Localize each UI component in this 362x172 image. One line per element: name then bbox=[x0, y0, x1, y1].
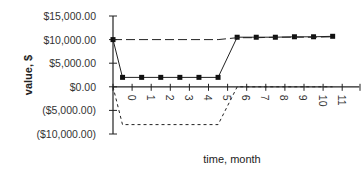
data-point-marker bbox=[216, 75, 221, 80]
data-point-marker bbox=[139, 75, 144, 80]
y-tick-labels: $15,000.00$10,000.00$5,000.00$0.00($5,00… bbox=[36, 10, 96, 140]
x-tick-label: 8 bbox=[278, 95, 290, 101]
x-tick-label: 2 bbox=[164, 95, 176, 101]
data-point-marker bbox=[158, 75, 163, 80]
data-point-marker bbox=[177, 75, 182, 80]
x-tick-label: 3 bbox=[183, 95, 195, 101]
x-tick-label: 9 bbox=[297, 95, 309, 101]
series-line-dotted bbox=[113, 87, 333, 125]
y-tick-label: $0.00 bbox=[70, 81, 96, 93]
y-tick-label: ($5,000.00) bbox=[42, 104, 96, 116]
x-tick-label: 10 bbox=[317, 95, 329, 107]
x-tick-labels: 01234567891011 bbox=[126, 95, 348, 107]
data-point-marker bbox=[120, 75, 125, 80]
y-axis bbox=[109, 16, 117, 134]
x-tick-label: 7 bbox=[259, 95, 271, 101]
data-point-marker bbox=[196, 75, 201, 80]
y-tick-label: $5,000.00 bbox=[49, 57, 96, 69]
line-chart: value, $ $15,000.00$10,000.00$5,000.00$0… bbox=[0, 0, 362, 172]
series-line-solid-with-markers bbox=[113, 36, 333, 77]
series-line-long-dashed bbox=[113, 37, 333, 40]
y-axis-title: value, $ bbox=[22, 55, 34, 95]
data-series bbox=[111, 34, 336, 125]
y-tick-label: $10,000.00 bbox=[43, 34, 96, 46]
x-axis-title: time, month bbox=[203, 153, 260, 165]
data-point-marker bbox=[330, 34, 335, 39]
x-tick-label: 6 bbox=[240, 95, 252, 101]
x-tick-label: 4 bbox=[202, 95, 214, 101]
x-tick-label: 1 bbox=[145, 95, 157, 101]
y-tick-label: $15,000.00 bbox=[43, 10, 96, 22]
x-tick-label: 0 bbox=[126, 95, 138, 101]
y-tick-label: ($10,000.00) bbox=[36, 128, 96, 140]
x-tick-label: 11 bbox=[336, 95, 348, 106]
